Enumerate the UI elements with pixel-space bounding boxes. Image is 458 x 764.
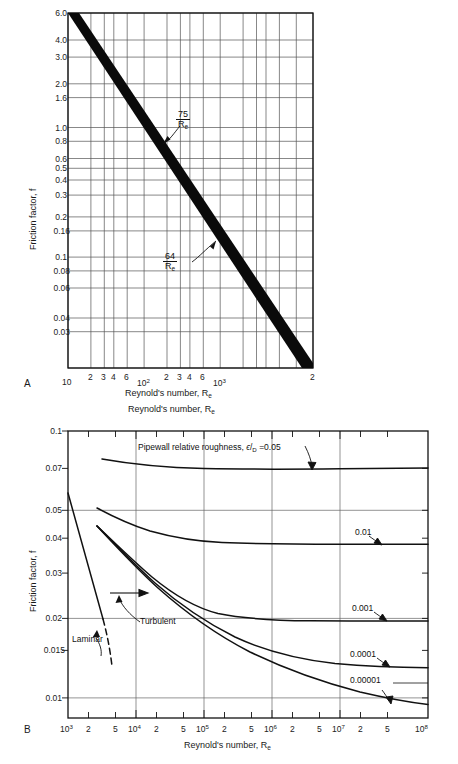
panel-a-xtick: 10 [62, 378, 71, 387]
annotation-75-numerator: 75 [176, 110, 190, 119]
curve-label-001: 0.01 [355, 527, 372, 537]
annotation-64-over-re: 64 Re [163, 252, 177, 273]
annotation-75-denominator: Re [176, 119, 190, 130]
panel-a-xtick: 2 [88, 373, 93, 382]
panel-a-ytick: 0.1 [55, 253, 67, 262]
annotation-64-numerator: 64 [163, 252, 177, 261]
panel-b-xtick: 105 [196, 724, 209, 733]
panel-b-xtick: 2 [290, 725, 295, 734]
panel-b-xtick: 5 [113, 725, 118, 734]
panel-b-xtick: 107 [332, 724, 345, 733]
curve-roughness-005 [102, 459, 428, 469]
panel-b-xtick-exp: 8 [424, 723, 427, 730]
panel-b-ytick: 0.04 [45, 534, 62, 543]
panel-b-xtick: 5 [317, 725, 322, 734]
panel-a-ytick: 3.0 [55, 53, 67, 62]
panel-a-y-axis-title: Friction factor, f [28, 188, 38, 250]
panel-a-xtick-exp: 2 [146, 377, 149, 384]
panel-b-xtick-exp: 6 [273, 723, 276, 730]
panel-b-ytick: 0.1 [50, 427, 62, 436]
annotation-64-den-sub: e [172, 265, 176, 272]
panel-a-ytick: 0.5 [55, 164, 67, 173]
panel-b-xtick: 108 [415, 724, 428, 733]
panel-b-ytick: 0.01 [45, 694, 62, 703]
panel-b-x-axis-title: Reynold's number, Re [184, 740, 271, 751]
panel-b-xtick-exp: 4 [137, 723, 140, 730]
annotation-75-den-sub: e [185, 123, 189, 130]
panel-a-ytick: 0.3 [55, 191, 67, 200]
panel-b-letter: B [24, 724, 31, 735]
panel-b-svg [0, 400, 458, 764]
panel-a-xtick-exp: 3 [222, 377, 225, 384]
panel-a-ytick: 0.06 [53, 284, 70, 293]
panel-a-ytick: 1.6 [55, 94, 67, 103]
turbulent-range-arrow [110, 590, 148, 597]
panel-a-x-axis-title-text: Reynold's number, R [125, 388, 208, 398]
panel-a-x-axis-title-sub: e [208, 392, 212, 399]
panel-b-xtick: 2 [222, 725, 227, 734]
panel-b-chart: Reynold's number, Re 0.1 0.07 0.05 0.04 … [0, 400, 458, 764]
panel-b-xtick-exp: 5 [205, 723, 208, 730]
panel-a-xtick: 102 [137, 378, 150, 387]
panel-b-xtick: 106 [264, 724, 277, 733]
leader-turbulent-arrowhead [116, 595, 123, 603]
curve-label-00001: 0.0001 [350, 649, 376, 659]
panel-a-ytick: 2.0 [55, 80, 67, 89]
panel-b-top-title-text: Reynold's number, R [128, 404, 211, 414]
panel-b-top-title: Reynold's number, Re [128, 404, 215, 415]
panel-b-ytick: 0.05 [45, 506, 62, 515]
panel-a-xtick: 4 [187, 373, 192, 382]
panel-b-ytick: 0.03 [45, 569, 62, 578]
panel-b-y-axis-title: Friction factor, f [28, 550, 38, 612]
panel-a-xtick: 2 [164, 373, 169, 382]
panel-a-ytick: 0.2 [55, 213, 67, 222]
regime-label-turbulent: Turbulent [140, 616, 176, 626]
roughness-value-005: =0.05 [259, 442, 281, 452]
panel-b-xtick-exp: 7 [341, 723, 344, 730]
panel-b-xtick: 104 [128, 724, 141, 733]
panel-a-ytick: 4.0 [55, 36, 67, 45]
panel-a-chart: 6.0 4.0 3.0 2.0 1.6 1.0 0.8 0.6 0.5 0.4 … [0, 0, 458, 400]
curve-laminar-dashed [103, 619, 112, 666]
regime-label-laminar: Laminar [72, 634, 103, 644]
panel-a-letter: A [24, 378, 31, 389]
curve-label-0001: 0.001 [352, 603, 373, 613]
panel-b-xtick: 5 [249, 725, 254, 734]
panel-b-ytick: 0.015 [44, 646, 65, 655]
panel-b-top-title-sub: e [211, 408, 215, 415]
panel-a-ytick: 0.03 [53, 328, 70, 337]
panel-b-xtick: 2 [86, 725, 91, 734]
panel-a-svg [0, 0, 458, 400]
panel-b-x-axis-title-text: Reynold's number, R [184, 740, 267, 750]
curve-label-000001: 0.00001 [350, 675, 381, 685]
panel-a-xtick: 2 [310, 373, 315, 382]
curve-roughness-00001 [97, 526, 428, 668]
panel-b-xtick: 2 [358, 725, 363, 734]
panel-a-ytick: 0.08 [53, 267, 70, 276]
panel-a-xtick: 103 [213, 378, 226, 387]
panel-b-x-axis-title-sub: e [267, 744, 271, 751]
panel-b-xtick: 103 [60, 724, 73, 733]
panel-b-xtick-exp: 3 [69, 723, 72, 730]
panel-a-xtick: 3 [101, 373, 106, 382]
leader-64 [192, 241, 216, 262]
panel-a-xtick: 6 [124, 373, 129, 382]
panel-b-xtick: 5 [181, 725, 186, 734]
panel-a-xtick: 3 [177, 373, 182, 382]
panel-b-xtick: 5 [385, 725, 390, 734]
roughness-caption: Pipewall relative roughness, ϵ/D =0.05 [138, 442, 281, 453]
panel-a-ytick: 0.8 [55, 137, 67, 146]
panel-a-ytick: 6.0 [55, 9, 67, 18]
panel-a-x-axis-title: Reynold's number, Re [125, 388, 212, 399]
panel-a-ytick: 0.04 [53, 314, 70, 323]
panel-a-ytick: 0.16 [53, 227, 70, 236]
diameter-symbol: D [252, 446, 256, 453]
panel-b-ytick: 0.02 [45, 614, 62, 623]
laminar-band-a [68, 13, 313, 368]
panel-a-xtick: 6 [200, 373, 205, 382]
panel-a-ytick: 0.4 [55, 176, 67, 185]
panel-b-xtick: 2 [154, 725, 159, 734]
panel-a-xtick-text: 10 [62, 377, 71, 387]
annotation-75-over-re: 75 Re [176, 110, 190, 131]
annotation-64-denominator: Re [163, 261, 177, 272]
